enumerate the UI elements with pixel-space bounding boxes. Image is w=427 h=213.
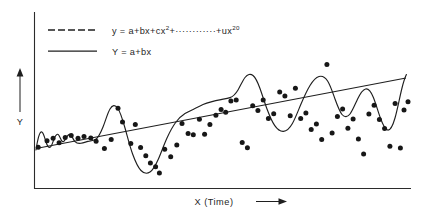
data-point [133,122,138,127]
data-point [398,146,403,151]
data-point [240,140,245,145]
data-point [309,127,314,132]
data-point [250,103,255,108]
data-point [282,94,287,99]
data-point [116,106,121,111]
data-point [303,111,308,116]
data-point [245,145,250,150]
data-point [234,98,239,103]
data-point [223,110,228,115]
data-point [128,141,133,146]
data-point [102,146,107,151]
data-point [377,117,382,122]
y-axis-label: Y [17,117,24,127]
data-point [335,114,340,119]
data-point [51,136,56,141]
data-point [361,152,366,157]
polynomial-overfit-curve [36,74,406,173]
data-point [298,116,303,121]
data-point [82,134,87,139]
data-point [288,113,293,118]
data-point [109,137,114,142]
data-point [213,113,218,118]
scatter-points-group [36,62,411,175]
data-point [148,160,153,165]
data-point [228,99,233,104]
data-point [372,103,377,108]
data-point [402,108,407,113]
data-point [314,122,319,127]
data-point [69,133,74,138]
legend-eq-mid: +············+ux [169,26,232,36]
data-point [76,136,81,141]
data-point [340,106,345,111]
data-point [319,137,324,142]
data-point [120,120,125,125]
data-point [186,131,191,136]
data-point [219,107,224,112]
data-point [174,142,179,147]
data-point [366,112,371,117]
data-point [255,108,260,113]
data-point [266,116,271,121]
data-point [207,122,212,127]
data-point [324,62,329,67]
y-axis-arrow-head-icon [17,68,24,77]
axis-frame [35,12,412,189]
legend-eq-lead: y = a+bx+cx [112,26,166,36]
x-axis-arrow-head-icon [279,198,288,205]
data-point [345,126,350,131]
figure-container: Y X (Time) y = a+bx+cx2+············+ux2… [0,0,427,213]
data-point [356,137,361,142]
data-point [382,126,387,131]
data-point [406,99,411,104]
data-point [143,153,148,158]
x-axis-label-group: X (Time) [195,197,287,207]
legend-entry-polynomial-fit[interactable]: y = a+bx+cx2+············+ux20 [48,24,240,35]
data-point [202,132,207,137]
data-point [393,101,398,106]
data-point [330,131,335,136]
chart-svg: Y X (Time) y = a+bx+cx2+············+ux2… [0,0,427,213]
legend-label-linear: Y = a+bx [112,47,151,57]
legend-label-polynomial: y = a+bx+cx2+············+ux20 [112,24,240,35]
x-axis-label: X (Time) [195,197,234,207]
data-point [191,132,196,137]
data-point [57,140,62,145]
data-point [387,144,392,149]
legend-eq-sup2: 20 [232,24,240,31]
data-point [197,117,202,122]
data-point [157,170,162,175]
data-point [168,154,173,159]
data-point [88,135,93,140]
data-point [94,139,99,144]
legend-entry-linear-fit[interactable]: Y = a+bx [48,47,151,57]
data-point [162,147,167,152]
data-point [351,116,356,121]
data-point [271,111,276,116]
data-point [261,98,266,103]
data-point [180,121,185,126]
y-axis-label-group: Y [17,68,24,127]
data-point [45,138,50,143]
data-point [293,86,298,91]
data-point [36,145,41,150]
data-point [138,145,143,150]
legend: y = a+bx+cx2+············+ux20 Y = a+bx [48,24,240,56]
data-point [153,164,158,169]
data-point [277,89,282,94]
data-point [63,135,68,140]
